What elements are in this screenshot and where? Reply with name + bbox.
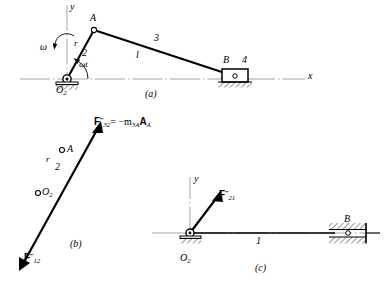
panel-b-point-o2 — [36, 191, 41, 196]
force-f21-arrow — [190, 196, 218, 233]
crank-length-r-label-b: r — [46, 155, 50, 164]
o2-subscript: 2 — [63, 89, 66, 96]
figure-vector-graphics — [0, 0, 388, 286]
point-o2-label-c: O2 — [180, 253, 191, 265]
joint-a-pin — [91, 27, 96, 32]
pivot-o2-inner — [66, 78, 69, 81]
point-a-label-a: A — [90, 13, 96, 23]
link-2-label-a: 2 — [82, 48, 87, 58]
panel-a-caption: (a) — [145, 88, 157, 99]
slider-ground-hatch — [218, 82, 252, 87]
force-f12-subscript: 12 — [33, 257, 40, 264]
point-o2-label-b: O2 — [42, 187, 53, 199]
y-axis-label-a: y — [70, 2, 74, 12]
crank-angle-label-a: ωt — [79, 60, 88, 69]
panel-a-graphics — [20, 5, 305, 90]
coupler-link-3 — [94, 30, 234, 76]
y-axis-label-c: y — [194, 174, 198, 184]
force-f12-label: F‴′12 — [24, 253, 40, 265]
link-3-label-a: 3 — [154, 33, 159, 43]
force-f32-equation: F‴′32= −m3AAA — [94, 117, 151, 129]
figure-container: y x A B O2 2 3 4 r l ω ωt (a) A O2 r 2 F… — [0, 0, 388, 286]
joint-b-pin — [233, 74, 237, 78]
x-axis-label-a: x — [308, 71, 312, 81]
ground-link-1-label-c: 1 — [256, 236, 261, 246]
panel-b-caption: (b) — [70, 238, 82, 249]
omega-curved-arrow — [55, 34, 74, 44]
force-f21-label: F‴′21 — [219, 190, 235, 202]
force-f32-mass-symbol: m — [124, 116, 132, 127]
panel-c-b-slot-lower-hatch — [329, 237, 367, 244]
point-b-label-a: B — [223, 55, 229, 65]
angular-velocity-label-a: ω — [40, 42, 47, 52]
panel-c-pivot-o2-inner — [189, 232, 192, 235]
crank-link-2 — [67, 30, 94, 79]
panel-b-joint-a — [60, 148, 65, 153]
panel-c-joint-b-pin — [346, 231, 351, 236]
panel-b-graphics — [19, 121, 103, 271]
link-2-label-b: 2 — [55, 162, 60, 172]
point-o2-label-a: O2 — [56, 85, 67, 97]
panel-c-ground-hatch — [180, 238, 201, 243]
o2-subscript-c: 2 — [187, 257, 190, 264]
panel-c-caption: (c) — [255, 262, 266, 273]
force-f32-relation: = − — [110, 116, 124, 127]
point-a-label-b: A — [67, 144, 73, 154]
link-4-label-a: 4 — [242, 55, 247, 65]
force-f32-accel-symbol: A — [139, 116, 146, 127]
force-f32-accel-subscript: A — [147, 121, 151, 128]
panel-c-graphics — [152, 177, 380, 244]
force-f21-subscript: 21 — [228, 194, 235, 201]
panel-c-ground-plate — [180, 236, 201, 238]
point-b-label-c: B — [344, 214, 350, 224]
coupler-length-l-label-a: l — [136, 50, 139, 60]
o2-subscript-b: 2 — [49, 191, 52, 198]
crank-length-r-label-a: r — [74, 39, 78, 48]
